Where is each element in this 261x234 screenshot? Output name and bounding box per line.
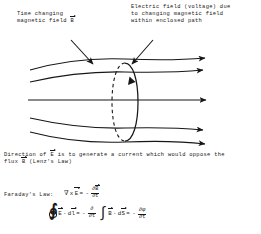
eq2-dl-vector: l: [71, 210, 75, 217]
pointer-to-electric-field-icon: [132, 40, 153, 64]
faraday-integral-equation: ∮ E · dl = - ∂ ∂t ∫ B · dS = - ∂φ ∂t: [48, 206, 147, 221]
eq2-flux-denominator: ∂t: [138, 214, 146, 221]
enclosed-path-front: [125, 63, 138, 141]
magnetic-field-lines: [28, 58, 206, 144]
eq2-ds-vector: S: [121, 210, 125, 217]
faraday-differential-equation: ∇ x E = - ∂B ∂t: [64, 187, 101, 199]
surface-integral-icon: ∫: [99, 209, 108, 220]
lenz-law-note: Direction of E is to generate a current …: [4, 152, 225, 166]
eq1-fraction: ∂B ∂t: [91, 187, 100, 199]
faraday-law-heading: Faraday's Law:: [4, 192, 54, 198]
current-direction-arrow-icon: [128, 77, 136, 86]
magnetic-field-vector-symbol: B: [70, 18, 74, 25]
contour-integral-icon: ∮: [48, 206, 57, 221]
eq2-minus-2: -: [131, 210, 137, 217]
eq2-ds: dS: [118, 210, 125, 217]
flux-vector-symbol: B: [22, 159, 26, 166]
eq2-ddt-denominator: ∂t: [88, 213, 96, 220]
field-line-diagram: [0, 36, 261, 148]
eq2-flux-numerator: ∂φ: [138, 206, 147, 214]
eq2-flux-fraction: ∂φ ∂t: [138, 206, 147, 220]
eq1-b-vector: B: [95, 187, 99, 192]
electric-field-caption: Electric field (voltage) due to changing…: [131, 4, 231, 26]
field-line-5: [30, 132, 205, 144]
eq2-ddt-fraction: ∂ ∂t: [88, 207, 96, 219]
eq2-magnetic-field: B: [108, 210, 112, 217]
contour-loop-ring: [49, 211, 57, 217]
lenz-note-line1-suffix: is to generate a current which would opp…: [54, 152, 225, 158]
enclosed-path-back: [112, 63, 125, 141]
lenz-note-line2-suffix: (Lenz's Law): [26, 159, 72, 165]
eq2-flux-phi: φ: [142, 205, 146, 212]
eq2-minus-1: -: [81, 210, 87, 217]
eq1-electric-field: E: [74, 190, 78, 197]
lenz-note-line2-prefix: flux: [4, 159, 22, 165]
equation-block: Faraday's Law: ∇ x E = - ∂B ∂t ∮ E · dl …: [0, 186, 261, 234]
figure-page: Time changing magnetic field B Electric …: [0, 0, 261, 234]
electric-field-vector-symbol: E: [50, 152, 54, 159]
field-line-4: [30, 118, 203, 130]
magnetic-field-caption: Time changing magnetic field B: [17, 11, 74, 25]
eq1-denominator: ∂t: [91, 193, 99, 200]
eq1-minus: -: [84, 190, 90, 197]
magnetic-field-caption-text: Time changing magnetic field: [17, 11, 67, 24]
eq2-electric-field: E: [58, 210, 62, 217]
